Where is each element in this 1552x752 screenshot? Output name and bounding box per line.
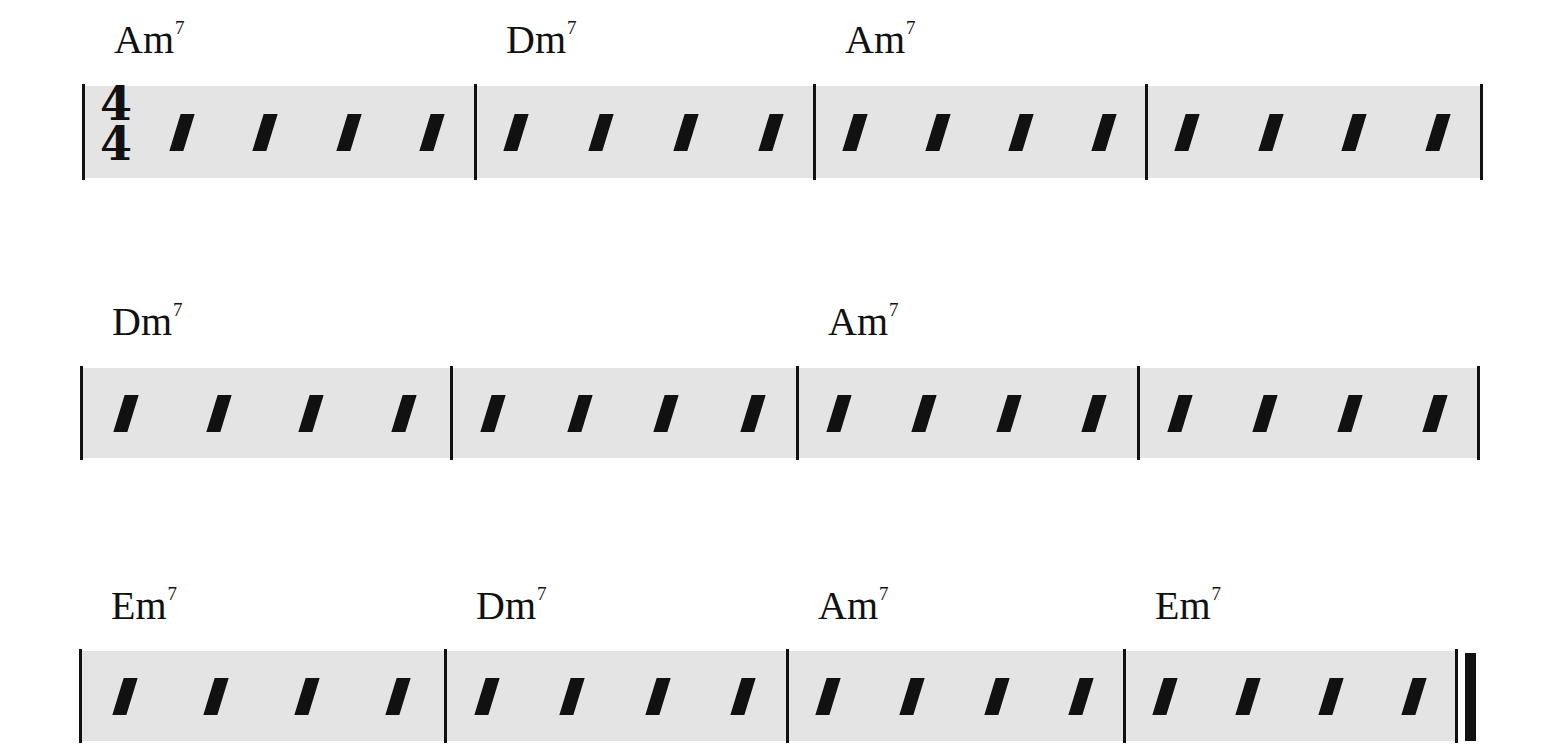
chord-extension: 7	[889, 299, 899, 320]
chord-root: Am	[828, 299, 888, 344]
barline	[444, 649, 447, 743]
time-signature: 44	[96, 84, 136, 164]
chord-root: Dm	[112, 299, 172, 344]
barline	[796, 366, 799, 460]
chord-extension: 7	[537, 583, 547, 604]
barline	[1123, 649, 1126, 743]
lead-sheet: 44Am7Dm7Am7Dm7Am7Em7Dm7Am7Em7	[0, 0, 1552, 752]
chord-root: Am	[818, 583, 878, 628]
chord-symbol: Am7	[114, 20, 185, 60]
chord-extension: 7	[175, 17, 185, 38]
chord-root: Dm	[506, 17, 566, 62]
chord-root: Am	[114, 17, 174, 62]
chord-extension: 7	[168, 583, 178, 604]
chord-symbol: Dm7	[476, 586, 547, 626]
chord-symbol: Dm7	[112, 302, 183, 342]
chord-symbol: Em7	[1155, 586, 1221, 626]
barline	[1480, 84, 1483, 180]
chord-symbol: Am7	[845, 20, 916, 60]
chord-symbol: Am7	[828, 302, 899, 342]
chord-symbol: Dm7	[506, 20, 577, 60]
chord-root: Am	[845, 17, 905, 62]
barline	[474, 84, 477, 180]
chord-extension: 7	[567, 17, 577, 38]
chord-symbol: Am7	[818, 586, 889, 626]
barline	[450, 366, 453, 460]
chord-extension: 7	[906, 17, 916, 38]
barline	[1455, 649, 1458, 743]
chord-root: Em	[1155, 583, 1211, 628]
chord-extension: 7	[879, 583, 889, 604]
chord-symbol: Em7	[111, 586, 177, 626]
barline	[813, 84, 816, 180]
time-signature-bottom: 4	[96, 124, 136, 164]
barline	[786, 649, 789, 743]
final-barline	[1465, 653, 1476, 741]
chord-root: Em	[111, 583, 167, 628]
chord-root: Dm	[476, 583, 536, 628]
barline	[79, 649, 82, 743]
barline	[1137, 366, 1140, 460]
barline	[82, 84, 85, 180]
barline	[80, 366, 83, 460]
chord-extension: 7	[173, 299, 183, 320]
chord-extension: 7	[1212, 583, 1222, 604]
barline	[1477, 366, 1480, 460]
barline	[1145, 84, 1148, 180]
